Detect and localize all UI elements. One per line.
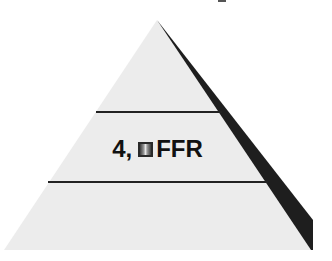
cropped-mark	[218, 0, 226, 2]
pyramid-diagram: 4, FFR	[0, 0, 332, 261]
gradient-square-icon	[138, 142, 153, 157]
middle-tier-label: 4, FFR	[100, 136, 215, 162]
tier-prefix: 4,	[112, 135, 132, 163]
pyramid-graphic	[0, 0, 332, 261]
tier-suffix: FFR	[156, 135, 203, 163]
